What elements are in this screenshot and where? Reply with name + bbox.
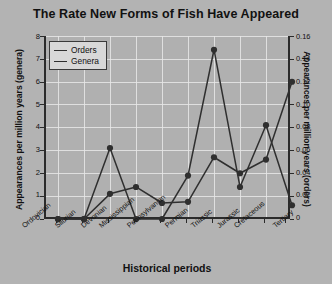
legend-item-orders: Orders — [54, 45, 99, 55]
data-point-genera-9 — [289, 79, 295, 85]
y-tick-mark-right-0 — [290, 219, 294, 220]
chart-title: The Rate New Forms of Fish Have Appeared — [0, 7, 332, 21]
data-point-orders-8 — [263, 122, 269, 128]
x-tick-mark-6 — [212, 219, 213, 223]
x-tick-mark-4 — [160, 219, 161, 223]
x-tick-mark-5 — [186, 219, 187, 223]
x-tick-mark-8 — [264, 219, 265, 223]
data-point-genera-7 — [237, 170, 243, 176]
legend-item-genera: Genera — [54, 56, 99, 66]
series-line-orders — [58, 50, 292, 219]
y-tick-mark-left-0 — [40, 219, 44, 220]
y-axis-right-title: Appearances per million years (orders) — [298, 36, 312, 222]
x-axis-title: Historical periods — [44, 262, 290, 274]
data-point-genera-8 — [263, 156, 269, 162]
legend-label-genera: Genera — [71, 56, 99, 66]
chart-legend: Orders Genera — [49, 41, 107, 70]
chart-root: The Rate New Forms of Fish Have Appeared… — [0, 0, 332, 284]
legend-line-icon-orders — [54, 50, 67, 51]
legend-label-orders: Orders — [71, 45, 97, 55]
legend-line-icon-genera — [54, 61, 67, 62]
data-point-genera-5 — [185, 199, 191, 205]
y-axis-left-title: Appearances per million years (genera) — [14, 38, 28, 221]
data-point-genera-2 — [107, 191, 113, 197]
data-point-orders-6 — [211, 47, 217, 53]
data-point-genera-6 — [211, 154, 217, 160]
data-point-orders-7 — [237, 184, 243, 190]
data-point-genera-3 — [133, 184, 139, 190]
data-point-orders-2 — [107, 145, 113, 151]
data-point-orders-5 — [185, 172, 191, 178]
